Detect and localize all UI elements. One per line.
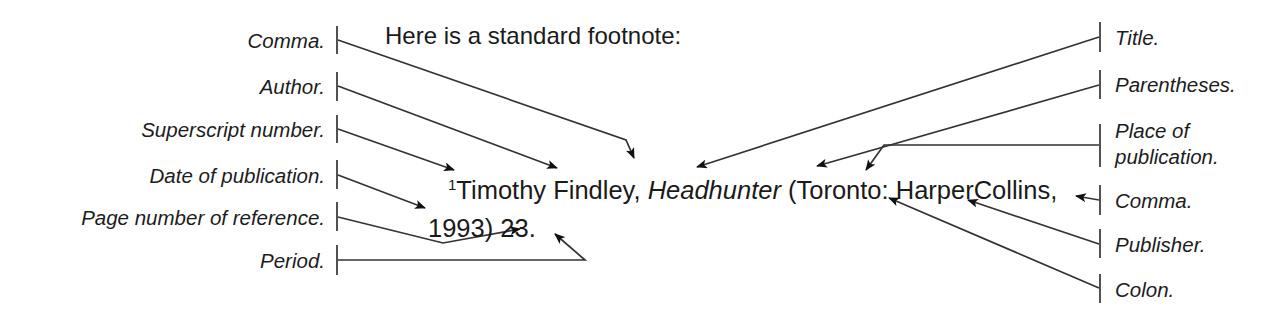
label-right-colon: Colon.: [1115, 277, 1174, 303]
label-left-comma: Comma.: [248, 28, 325, 54]
footnote-open-paren: (: [781, 176, 797, 204]
connector-title-right: [697, 37, 1099, 167]
footnote-year: 1993: [428, 214, 485, 242]
label-left-period: Period.: [260, 248, 325, 274]
footnote-line-two: 1993) 23.: [428, 209, 1057, 247]
footnote-publisher: HarperCollins: [896, 176, 1050, 204]
label-left-author: Author.: [260, 74, 325, 100]
connector-date-left: [338, 175, 425, 208]
footnote-annotation-figure: Here is a standard footnote: 1Timothy Fi…: [0, 0, 1287, 333]
connector-superscript-left: [338, 129, 454, 170]
label-right-publisher: Publisher.: [1115, 232, 1205, 258]
connector-comma-right: [1076, 196, 1099, 200]
footnote-place: Toronto: [797, 176, 882, 204]
connector-author-left: [338, 86, 557, 168]
footnote-author: Timothy Findley,: [456, 176, 647, 204]
label-left-superscript: Superscript number.: [141, 117, 325, 143]
footnote-page-number: 23: [500, 214, 528, 242]
label-right-place: Place of publication.: [1115, 118, 1219, 170]
footnote-close-paren: ): [485, 214, 501, 242]
label-right-comma: Comma.: [1115, 188, 1192, 214]
footnote-period: .: [529, 214, 536, 242]
label-right-parentheses: Parentheses.: [1115, 72, 1236, 98]
connector-parentheses-right: [817, 85, 1099, 166]
footnote-comma: ,: [1050, 176, 1057, 204]
footnote-title: Headhunter: [648, 176, 781, 204]
label-left-date: Date of publication.: [149, 163, 325, 189]
label-left-page-number: Page number of reference.: [81, 205, 325, 231]
footnote-sample-text: 1Timothy Findley, Headhunter (Toronto: H…: [448, 166, 1057, 247]
page-title: Here is a standard footnote:: [385, 22, 681, 50]
footnote-colon: :: [882, 176, 896, 204]
connector-comma-left: [338, 40, 634, 158]
label-right-title: Title.: [1115, 25, 1159, 51]
